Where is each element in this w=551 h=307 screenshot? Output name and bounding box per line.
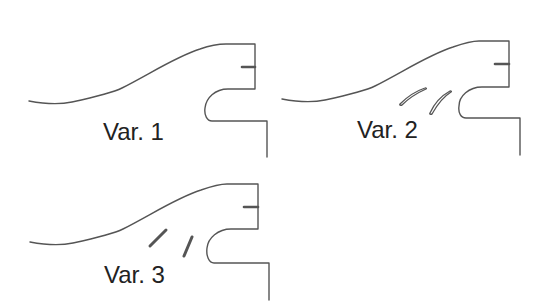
curved-guide-vane-2: [430, 91, 452, 115]
variant-3: Var. 3: [30, 184, 269, 300]
straight-guide-vane-2: [184, 237, 192, 256]
variant-2: Var. 2: [282, 41, 520, 155]
curved-guide-vane-1: [400, 88, 427, 106]
variant-label: Var. 3: [104, 261, 165, 288]
variant-label: Var. 2: [357, 116, 418, 143]
straight-guide-vane-1: [150, 230, 166, 246]
variant-label: Var. 1: [103, 118, 164, 145]
variant-1: Var. 1: [29, 44, 267, 157]
variants-diagram: Var. 1 Var. 2 Var. 3: [0, 0, 551, 307]
